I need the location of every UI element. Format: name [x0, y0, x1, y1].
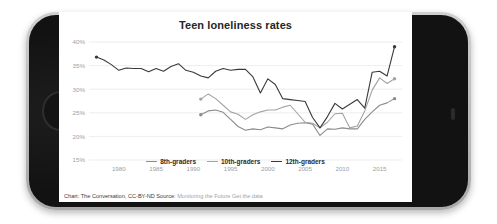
footer-source-label: Source: [156, 193, 175, 199]
footer-credit: Chart: The Conversation, CC-BY-ND [64, 193, 155, 199]
y-axis-tick-label: 25% [73, 109, 86, 116]
legend-item-label: 10th-graders [221, 158, 260, 165]
legend-line-swatch-icon [207, 161, 218, 162]
legend-item-2[interactable]: 12th-graders [271, 158, 324, 165]
series-endpoint-marker [393, 45, 396, 48]
footer-get-data-link[interactable]: Get the data [232, 193, 263, 199]
y-axis-tick-label: 20% [73, 133, 86, 140]
x-axis-tick-label: 1990 [186, 165, 200, 172]
phone-screen: Teen loneliness rates 15%20%25%30%35%40%… [59, 12, 412, 202]
x-axis-tick-label: 1985 [149, 165, 163, 172]
x-axis-tick-label: 2015 [373, 165, 387, 172]
footer-source-name[interactable]: Monitoring the Future [177, 193, 230, 199]
x-axis-tick-label: 2010 [335, 165, 349, 172]
series-endpoint-marker [393, 77, 396, 80]
series-endpoint-marker [95, 55, 98, 58]
chart-footer: Chart: The Conversation, CC-BY-ND Source… [64, 193, 263, 199]
x-axis-tick-label: 1995 [224, 165, 238, 172]
x-axis-tick-label: 2005 [298, 165, 312, 172]
y-axis-tick-label: 35% [73, 62, 86, 69]
x-axis-tick-label: 1980 [112, 165, 126, 172]
legend-item-label: 12th-graders [285, 158, 324, 165]
y-axis-tick-label: 40% [73, 38, 86, 45]
chart-title: Teen loneliness rates [59, 19, 412, 31]
x-axis-tick-label: 2000 [261, 165, 275, 172]
chart-legend: 8th-graders10th-graders12th-graders [59, 158, 412, 165]
chart-card: Teen loneliness rates 15%20%25%30%35%40%… [59, 12, 412, 202]
series-endpoint-marker [393, 97, 396, 100]
screenshot-root: Teen loneliness rates 15%20%25%30%35%40%… [0, 0, 497, 224]
power-button-icon[interactable] [451, 108, 455, 120]
legend-item-1[interactable]: 10th-graders [207, 158, 260, 165]
y-axis-tick-label: 30% [73, 86, 86, 93]
series-line-12th-graders [96, 47, 394, 128]
legend-line-swatch-icon [271, 161, 282, 162]
legend-line-swatch-icon [146, 161, 157, 162]
legend-item-label: 8th-graders [160, 158, 196, 165]
series-endpoint-marker [199, 113, 202, 116]
series-endpoint-marker [199, 97, 202, 100]
legend-item-0[interactable]: 8th-graders [146, 158, 196, 165]
